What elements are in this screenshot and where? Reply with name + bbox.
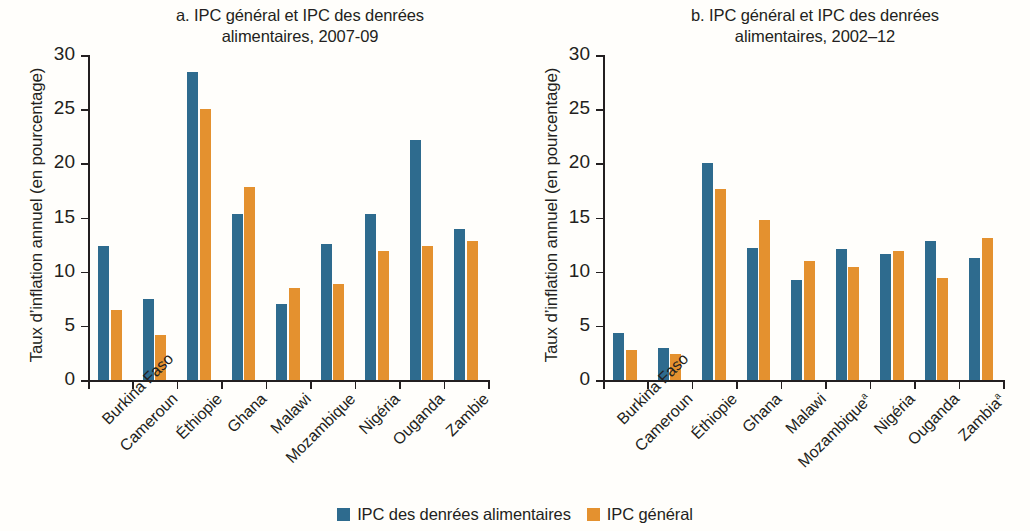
- y-tick: 0: [81, 380, 88, 382]
- y-tick-label: 20: [41, 151, 75, 173]
- bar: [422, 246, 433, 380]
- y-tick: 10: [81, 272, 88, 274]
- panel-b-x-axis-labels: Burkina FasoCamerounÉthiopieGhanaMalawiM…: [603, 390, 1023, 495]
- panel-b: b. IPC général et IPC des denrées alimen…: [515, 0, 1030, 495]
- y-tick-label: 5: [556, 314, 590, 336]
- bar: [791, 280, 802, 380]
- y-tick: 30: [596, 55, 603, 57]
- bar: [702, 163, 713, 380]
- panel-a-plot-area: 051015202530: [88, 55, 488, 380]
- chart-legend: IPC des denrées alimentairesIPC général: [0, 497, 1030, 531]
- figure-two-panel-cpi-inflation: a. IPC général et IPC des denrées alimen…: [0, 0, 1030, 531]
- bar: [893, 251, 904, 380]
- bar: [378, 251, 389, 380]
- bar: [613, 333, 624, 380]
- bar: [982, 238, 993, 380]
- bar: [759, 220, 770, 380]
- y-tick-label: 5: [41, 314, 75, 336]
- legend-swatch-general: [587, 508, 600, 521]
- bar: [925, 241, 936, 380]
- panels-container: a. IPC général et IPC des denrées alimen…: [0, 0, 1030, 495]
- bar: [111, 310, 122, 380]
- bar: [187, 72, 198, 380]
- y-tick: 0: [596, 380, 603, 382]
- x-tick: [736, 380, 738, 389]
- y-tick: 25: [81, 109, 88, 111]
- y-tick: 5: [596, 326, 603, 328]
- legend-swatch-food: [337, 508, 350, 521]
- panel-b-title-line2: alimentaires, 2002–12: [735, 27, 895, 45]
- x-tick: [266, 380, 268, 389]
- bar: [467, 241, 478, 380]
- x-tick: [221, 380, 223, 389]
- bar: [244, 187, 255, 380]
- x-tick: [692, 380, 694, 389]
- x-tick: [399, 380, 401, 389]
- panel-a-x-axis-labels: Burkina FasoCamerounÉthiopieGhanaMalawiM…: [88, 390, 508, 495]
- bar: [410, 140, 421, 381]
- panel-a-title-line1: a. IPC général et IPC des denrées: [176, 6, 424, 24]
- y-tick-label: 30: [556, 43, 590, 65]
- y-tick: 15: [596, 218, 603, 220]
- panel-b-plot-area: 051015202530: [603, 55, 1003, 380]
- x-tick: [444, 380, 446, 389]
- bar: [626, 350, 637, 380]
- bar: [715, 189, 726, 380]
- x-tick: [825, 380, 827, 389]
- y-tick: 10: [596, 272, 603, 274]
- bar: [836, 249, 847, 380]
- y-tick-label: 30: [41, 43, 75, 65]
- y-tick: 5: [81, 326, 88, 328]
- panel-b-title-line1: b. IPC général et IPC des denrées: [691, 6, 939, 24]
- y-tick: 30: [81, 55, 88, 57]
- bar: [365, 214, 376, 380]
- bar: [321, 244, 332, 381]
- legend-item: IPC des denrées alimentaires: [337, 505, 571, 524]
- y-tick-label: 0: [556, 368, 590, 390]
- x-tick: [914, 380, 916, 389]
- x-axis-label: Burkina Faso: [99, 390, 137, 428]
- x-tick: [870, 380, 872, 389]
- y-tick: 15: [81, 218, 88, 220]
- x-tick: [177, 380, 179, 389]
- y-tick-label: 10: [41, 260, 75, 282]
- x-tick: [781, 380, 783, 389]
- bar: [747, 248, 758, 380]
- x-axis-label-text: Zambie: [442, 390, 491, 439]
- y-tick-label: 0: [41, 368, 75, 390]
- bar: [232, 214, 243, 380]
- y-tick-label: 10: [556, 260, 590, 282]
- y-tick-label: 15: [41, 206, 75, 228]
- panel-a-bars: [88, 55, 488, 380]
- bar: [276, 304, 287, 380]
- bar: [200, 109, 211, 380]
- x-tick: [603, 380, 605, 389]
- legend-item: IPC général: [587, 505, 693, 524]
- x-tick: [488, 380, 490, 389]
- bar: [98, 246, 109, 380]
- legend-label: IPC général: [607, 505, 693, 524]
- bar: [333, 284, 344, 380]
- bar: [969, 258, 980, 380]
- y-tick: 20: [81, 163, 88, 165]
- bar: [848, 267, 859, 380]
- x-axis-label: Burkina Faso: [614, 390, 652, 428]
- bar: [454, 229, 465, 380]
- panel-b-title: b. IPC général et IPC des denrées alimen…: [605, 5, 1025, 47]
- panel-a: a. IPC général et IPC des denrées alimen…: [0, 0, 515, 495]
- x-tick: [355, 380, 357, 389]
- y-tick: 25: [596, 109, 603, 111]
- panel-b-bars: [603, 55, 1003, 380]
- x-tick: [310, 380, 312, 389]
- y-tick-label: 25: [41, 97, 75, 119]
- x-tick: [1003, 380, 1005, 389]
- x-tick: [959, 380, 961, 389]
- y-tick: 20: [596, 163, 603, 165]
- legend-label: IPC des denrées alimentaires: [357, 505, 571, 524]
- bar: [937, 278, 948, 380]
- y-tick-label: 20: [556, 151, 590, 173]
- y-tick-label: 25: [556, 97, 590, 119]
- bar: [804, 261, 815, 380]
- panel-a-title: a. IPC général et IPC des denrées alimen…: [90, 5, 510, 47]
- bar: [289, 288, 300, 380]
